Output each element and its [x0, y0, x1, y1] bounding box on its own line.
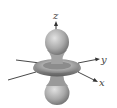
x-axis-back — [8, 72, 36, 80]
y-axis-label: y — [100, 54, 107, 65]
orbital-diagram: z y x — [0, 0, 117, 108]
y-axis-back — [16, 60, 40, 63]
x-axis-front — [78, 72, 94, 80]
upper-lobe — [45, 29, 69, 55]
z-axis-arrowhead — [54, 21, 58, 26]
z-axis-label: z — [52, 10, 59, 21]
x-axis-label: x — [99, 77, 105, 88]
y-axis-arrowhead — [95, 58, 100, 62]
y-axis-front — [78, 60, 96, 64]
